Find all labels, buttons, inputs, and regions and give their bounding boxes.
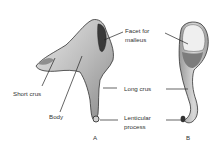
label-facet-line1: Facet for xyxy=(125,27,149,34)
label-body: Body xyxy=(49,113,63,120)
view-label-b: B xyxy=(186,134,190,141)
view-b-bone xyxy=(179,22,208,123)
incus-diagram: Facet for malleus Short crus Body Long c… xyxy=(0,0,218,149)
label-short-crus: Short crus xyxy=(13,90,41,97)
view-label-a: A xyxy=(93,134,97,141)
label-lenticular-line1: Lenticular xyxy=(124,114,151,121)
label-lenticular-line2: process xyxy=(124,123,146,130)
label-long-crus: Long crus xyxy=(124,85,151,92)
label-facet-line2: malleus xyxy=(125,36,146,43)
leader-lines xyxy=(42,32,188,120)
view-a-bone xyxy=(36,19,113,122)
incus-illustration xyxy=(0,0,218,149)
